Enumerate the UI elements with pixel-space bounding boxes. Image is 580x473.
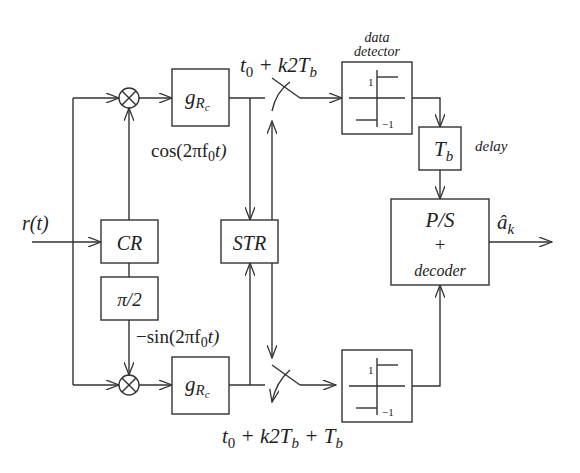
bottom-detector-to-ps [412, 285, 440, 386]
bottom-sampler-switch [272, 365, 300, 402]
bottom-sampling-time-label: t0 + k2Tb + Tb [222, 424, 343, 451]
plus-label: + [435, 234, 446, 255]
symbol-timing-recovery-block: STR [221, 220, 278, 263]
sin-carrier-label: −sin(2πf0t) [136, 326, 219, 350]
detector-level-pos: 1 [368, 364, 374, 376]
top-data-detector: 1 −1 [342, 62, 412, 134]
decoder-label: decoder [414, 262, 466, 279]
delay-block: Tb [419, 127, 461, 170]
top-matched-filter: gRc [172, 69, 229, 126]
ps-label: P/S [424, 208, 455, 232]
input-label: r(t) [22, 212, 49, 235]
top-mixer [119, 88, 139, 108]
phase-shift-block: π/2 [101, 277, 158, 320]
carrier-recovery-label: CR [117, 232, 143, 254]
str-label: STR [233, 232, 266, 254]
detector-to-delay [412, 98, 440, 127]
bottom-mixer [119, 375, 139, 395]
output-label: âk [497, 210, 515, 237]
bottom-data-detector: 1 −1 [342, 350, 412, 422]
delay-annotation: delay [475, 138, 508, 154]
carrier-recovery-block: CR [101, 220, 158, 263]
cos-carrier-label: cos(2πf0t) [151, 140, 227, 164]
input-signal: r(t) [22, 212, 101, 242]
detector-level-pos: 1 [368, 76, 374, 88]
detector-level-neg: −1 [382, 118, 394, 130]
detector-level-neg: −1 [382, 406, 394, 418]
phase-shift-label: π/2 [117, 289, 142, 310]
top-sampler-switch [272, 78, 300, 111]
bottom-matched-filter: gRc [172, 357, 229, 414]
top-sampling-time-label: t0 + k2Tb [240, 53, 318, 80]
detector-title-line1: data [365, 30, 390, 45]
detector-title-line2: detector [354, 44, 400, 59]
ps-decoder-block: P/S + decoder [391, 199, 489, 285]
qpsk-receiver-diagram: r(t) CR π/2 cos(2πf0t) −sin(2πf0t) gRc [0, 0, 580, 473]
